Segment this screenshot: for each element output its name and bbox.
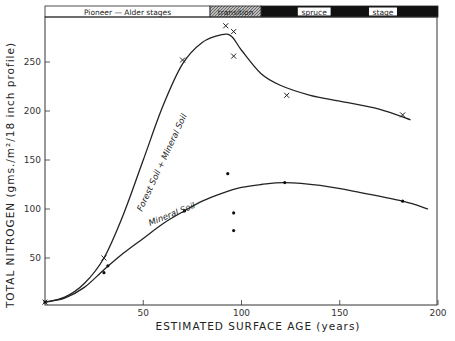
x-marker bbox=[223, 23, 228, 28]
y-tick-label: 150 bbox=[24, 155, 41, 165]
x-marker bbox=[180, 58, 185, 63]
x-tick-label: 200 bbox=[429, 308, 446, 318]
x-tick-label: 100 bbox=[233, 308, 250, 318]
stage-band-label: transition bbox=[218, 8, 254, 17]
y-tick-label: 250 bbox=[24, 57, 41, 67]
plot-frame bbox=[45, 17, 437, 305]
x-marker bbox=[284, 93, 289, 98]
x-marker bbox=[101, 256, 106, 261]
x-axis-title: ESTIMATED SURFACE AGE (years) bbox=[156, 320, 361, 332]
dot-marker bbox=[102, 271, 105, 274]
x-marker bbox=[231, 54, 236, 59]
stage-band-label: spruce bbox=[302, 8, 328, 17]
dot-marker bbox=[283, 181, 286, 184]
stage-band-label: stage bbox=[373, 8, 394, 17]
dot-marker bbox=[232, 211, 235, 214]
curves bbox=[45, 34, 428, 302]
curve-forest-mineral-soil bbox=[45, 34, 410, 302]
y-axis-title: TOTAL NITROGEN (gms./m²/18 inch profile) bbox=[4, 42, 16, 309]
x-tick-label: 150 bbox=[331, 308, 348, 318]
y-tick-label: 100 bbox=[24, 204, 41, 214]
curve-mineral-soil bbox=[45, 183, 428, 303]
axis-ticks: 5010015020050100150200250 bbox=[24, 57, 447, 318]
dot-marker bbox=[401, 200, 404, 203]
x-marker bbox=[231, 29, 236, 34]
stage-bands: Pioneer — Alder stagestransitionsprucest… bbox=[45, 6, 438, 17]
nitrogen-chart: Pioneer — Alder stagestransitionsprucest… bbox=[0, 0, 455, 341]
curve-label-mineral: Mineral Soil bbox=[147, 200, 197, 228]
dot-marker bbox=[43, 301, 46, 304]
x-tick-label: 50 bbox=[138, 308, 150, 318]
dot-marker bbox=[226, 172, 229, 175]
markers bbox=[43, 23, 406, 304]
dot-marker bbox=[232, 229, 235, 232]
y-tick-label: 200 bbox=[24, 106, 41, 116]
dot-marker bbox=[106, 264, 109, 267]
stage-band-black bbox=[261, 6, 438, 17]
y-tick-label: 50 bbox=[30, 253, 42, 263]
stage-band-label: Pioneer — Alder stages bbox=[84, 8, 171, 17]
